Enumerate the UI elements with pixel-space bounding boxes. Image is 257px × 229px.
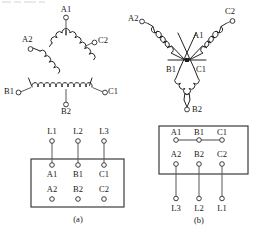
label-b2-star: B2 <box>192 104 202 114</box>
stud-c2-delta[interactable] <box>102 197 107 202</box>
label-b2-delta: B2 <box>61 106 71 116</box>
supply-terminal-l2[interactable] <box>197 196 202 201</box>
coil-c-upper-delta <box>70 32 81 43</box>
label-b1-block-star: B1 <box>194 127 204 137</box>
star-winding-diagram: A2 C2 B2 A1 B1 C1 <box>128 6 235 114</box>
label-c2-block-delta: C2 <box>99 184 109 194</box>
label-b1-delta: B1 <box>4 86 14 96</box>
label-a1-star: A1 <box>193 30 203 40</box>
label-l2-delta: L2 <box>73 126 82 136</box>
label-c2-block-star: C2 <box>217 149 227 159</box>
stud-b1-star[interactable] <box>197 138 202 143</box>
label-l3-delta: L3 <box>99 126 108 136</box>
lead-c1 <box>93 88 104 93</box>
stud-a2-delta[interactable] <box>50 197 55 202</box>
stud-a2-star[interactable] <box>174 162 179 167</box>
coil-b-delta <box>32 83 92 87</box>
terminal-c2-star[interactable] <box>230 19 235 24</box>
coil-b-star-left <box>175 68 190 107</box>
coil-a-joint <box>50 43 53 47</box>
supply-terminal-l2[interactable] <box>76 139 81 144</box>
label-c1-block-star: C1 <box>217 127 227 137</box>
label-c1-block-delta: C1 <box>99 169 109 179</box>
label-c2-star: C2 <box>225 6 235 16</box>
label-l3-star: L3 <box>171 203 180 213</box>
delta-winding-diagram: A1 A2 C2 B1 C1 B2 <box>4 4 118 116</box>
corner-bl-delta <box>29 78 32 86</box>
stud-c2-star[interactable] <box>220 162 225 167</box>
supply-terminal-l1[interactable] <box>50 139 55 144</box>
terminal-a2-star[interactable] <box>140 19 145 24</box>
figure-canvas: A1 A2 C2 B1 C1 B2 <box>0 0 257 229</box>
label-a2-block-delta: A2 <box>47 184 57 194</box>
stud-b2-delta[interactable] <box>76 197 81 202</box>
coil-a-delta <box>33 48 60 73</box>
label-a2-delta: A2 <box>22 34 32 44</box>
label-b2-block-delta: B2 <box>73 184 83 194</box>
terminal-block-delta: L1 L2 L3 A1 B1 C1 A2 B2 C2 (a) <box>31 126 124 224</box>
label-a1-block-star: A1 <box>171 127 181 137</box>
caption-a: (a) <box>73 214 83 224</box>
label-b2-block-star: B2 <box>194 149 204 159</box>
stud-a1-star[interactable] <box>174 138 179 143</box>
supply-terminal-l1[interactable] <box>220 196 225 201</box>
line-crossing-star <box>178 33 194 68</box>
supply-terminal-l3[interactable] <box>102 139 107 144</box>
terminal-a2-delta[interactable] <box>28 47 33 52</box>
terminal-a1-delta[interactable] <box>64 15 69 20</box>
terminal-block-star: A1 B1 C1 A2 B2 C2 L3 L2 L1 (b) <box>159 126 248 225</box>
label-c2-delta: C2 <box>98 35 108 45</box>
label-a1-delta: A1 <box>61 4 71 14</box>
label-l1-delta: L1 <box>47 126 56 136</box>
stud-c1-star[interactable] <box>220 138 225 143</box>
label-l1-star: L1 <box>217 203 226 213</box>
coil-a-upper-delta <box>51 32 62 43</box>
caption-b: (b) <box>194 215 204 225</box>
label-a1-block-delta: A1 <box>47 169 57 179</box>
label-a2-star: A2 <box>128 13 138 23</box>
stud-b2-star[interactable] <box>197 162 202 167</box>
winding-connection-figure: A1 A2 C2 B1 C1 B2 <box>0 0 257 229</box>
terminal-c2-delta[interactable] <box>92 40 97 45</box>
stud-b1-delta[interactable] <box>76 163 81 168</box>
lead-b1 <box>21 88 32 93</box>
terminal-b1-delta[interactable] <box>16 90 21 95</box>
label-b1-star: B1 <box>166 64 176 74</box>
label-a2-block-star: A2 <box>171 149 181 159</box>
supply-terminal-l3[interactable] <box>174 196 179 201</box>
stud-c1-delta[interactable] <box>102 163 107 168</box>
scan-artifact <box>2 1 45 3</box>
label-c1-delta: C1 <box>108 86 118 96</box>
terminal-c1-delta[interactable] <box>103 90 108 95</box>
label-l2-star: L2 <box>194 203 203 213</box>
terminal-b2-star[interactable] <box>185 107 190 112</box>
label-c1-star: C1 <box>196 64 206 74</box>
label-b1-block-delta: B1 <box>73 169 83 179</box>
stud-a1-delta[interactable] <box>50 163 55 168</box>
